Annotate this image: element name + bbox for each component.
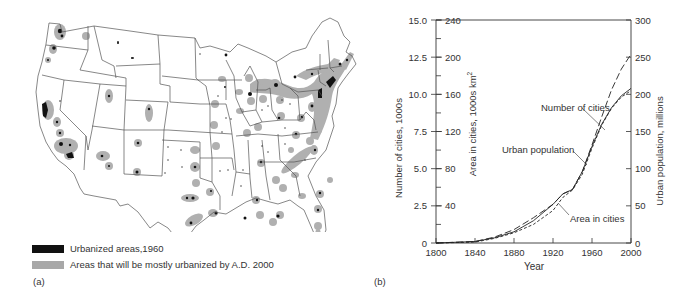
y-tick-label-cities: 0 [422,238,427,249]
axis-ticks [431,20,631,243]
leader-area-in-cities [558,203,569,215]
chart-panel: 18001840188019201960200002.55.07.510.012… [360,0,698,304]
y-tick-label-cities: 2.5 [414,200,427,211]
panel-label-b: (b) [374,276,386,287]
leader-urban-population [573,151,587,165]
y-axis-label-cities: Number of cities, 1000s [393,98,404,198]
x-tick-label: 2000 [620,247,641,258]
x-axis-label: Year [524,261,545,272]
annotation-urban-population: Urban population [502,144,574,155]
x-tick-label: 1920 [542,247,563,258]
y-tick-label-cities: 10.0 [409,89,428,100]
legend-label: Areas that will be mostly urbanized by A… [70,259,274,270]
annotation-area-in-cities: Area in cities [570,213,625,224]
area-label-text: Area in cities, 1000s km [467,75,478,176]
x-tick-label: 1880 [503,247,524,258]
legend-swatch-gray [32,261,64,269]
chart-frame [436,20,631,243]
y-tick-label-area: 40 [445,200,456,211]
y-tick-label-cities: 7.5 [414,126,427,137]
map-panel: Urbanized areas,1960 Areas that will be … [0,0,360,304]
y-tick-label-cities: 15.0 [409,15,428,26]
y-tick-label-area: 160 [445,89,461,100]
y-tick-label-population: 200 [635,89,651,100]
y-tick-label-cities: 5.0 [414,163,427,174]
area-label-superscript: 2 [466,71,473,75]
y-axis-label-population: Urban population, millions [654,96,665,206]
legend-swatch-black [32,245,64,253]
y-tick-label-area: 240 [445,15,461,26]
y-tick-label-population: 50 [635,200,646,211]
legend-label: Urbanized areas,1960 [70,243,163,254]
projected-urban-areas [42,24,354,232]
x-tick-label: 1800 [425,247,446,258]
y-tick-label-area: 200 [445,52,461,63]
y-tick-label-cities: 12.5 [409,52,428,63]
urban-growth-line-chart: 18001840188019201960200002.55.07.510.012… [360,0,698,304]
us-urbanization-map [0,0,360,232]
y-tick-label-area: 120 [445,126,461,137]
panel-label-a: (a) [33,276,45,287]
y-tick-label-area: 80 [445,163,456,174]
city-dots [59,41,305,187]
y-axis-label-area: Area in cities, 1000s km2 [466,71,478,176]
y-tick-label-population: 150 [635,126,651,137]
y-tick-label-population: 0 [635,238,640,249]
annotation-number-of-cities: Number of cities [541,102,610,113]
legend-item-urbanized-1960: Urbanized areas,1960 [32,243,163,254]
x-tick-label: 1960 [581,247,602,258]
y-tick-label-population: 250 [635,52,651,63]
x-tick-label: 1840 [464,247,485,258]
legend-item-urbanized-2000: Areas that will be mostly urbanized by A… [32,259,274,270]
y-tick-label-population: 100 [635,163,651,174]
y-tick-label-population: 300 [635,15,651,26]
